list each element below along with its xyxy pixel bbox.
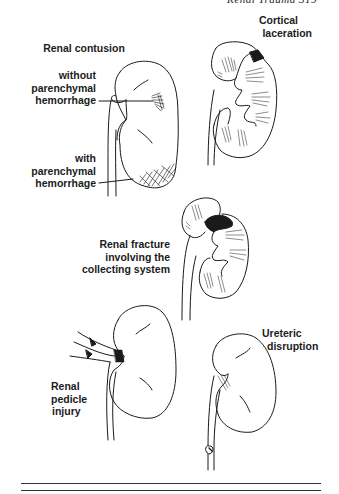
label-without-parenchymal-hemorrhage: without parenchymal hemorrhage: [20, 69, 96, 107]
label-line: disruption: [262, 340, 332, 353]
footer-rule-bottom: [21, 490, 321, 491]
label-line: injury: [51, 405, 111, 418]
label-renal-fracture: Renal fracture involving the collecting …: [60, 238, 170, 276]
label-renal-contusion: Renal contusion: [24, 42, 144, 55]
label-ureteric-disruption: Ureteric disruption: [262, 327, 332, 352]
contusion-kidney-drawing: [99, 61, 178, 196]
label-line: collecting system: [60, 263, 170, 276]
label-line: hemorrhage: [20, 94, 96, 107]
label-renal-pedicle-injury: Renal pedicle injury: [51, 380, 111, 418]
label-line: Renal fracture: [60, 238, 170, 251]
label-line: parenchymal: [20, 82, 96, 95]
label-line: parenchymal: [20, 165, 96, 178]
label-line: involving the: [60, 251, 170, 264]
document-page: Renal Trauma 319: [0, 0, 339, 494]
label-line: hemorrhage: [20, 177, 96, 190]
label-line: laceration: [230, 27, 312, 40]
label-line: without: [20, 69, 96, 82]
footer-rule-top: [21, 483, 321, 484]
label-line: with: [20, 152, 96, 165]
ureteric-disruption-drawing: [206, 334, 276, 470]
label-line: Renal: [51, 380, 111, 393]
label-with-parenchymal-hemorrhage: with parenchymal hemorrhage: [20, 152, 96, 190]
label-line: Cortical: [230, 14, 312, 27]
label-cortical-laceration: Cortical laceration: [230, 14, 312, 39]
label-line: Ureteric: [262, 327, 332, 340]
renal-fracture-drawing: [182, 198, 249, 320]
cortical-laceration-drawing: [208, 42, 277, 165]
pedicle-injury-drawing: [70, 306, 176, 440]
label-line: pedicle: [51, 393, 111, 406]
